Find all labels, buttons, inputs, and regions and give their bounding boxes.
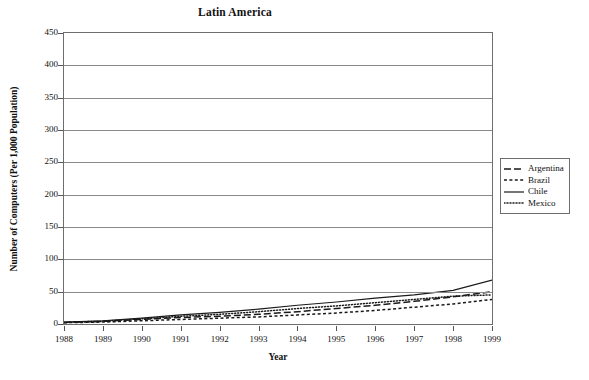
y-axis-tick-label: 100 <box>26 254 58 263</box>
chart-title: Latin America <box>0 6 470 18</box>
x-axis-tick-mark <box>181 326 182 331</box>
y-axis-tick-label: 150 <box>26 222 58 231</box>
gridline <box>64 98 492 99</box>
series-line-mexico <box>64 295 492 322</box>
x-axis-tick-mark <box>414 326 415 331</box>
gridline <box>64 162 492 163</box>
x-axis-tick-label: 1992 <box>200 335 240 344</box>
series-lines <box>64 33 492 324</box>
x-axis-tick-label: 1996 <box>355 335 395 344</box>
x-axis-tick-mark <box>453 326 454 331</box>
gridline <box>64 130 492 131</box>
legend-swatch-argentina-icon <box>504 164 524 174</box>
y-axis-tick-label: 50 <box>26 287 58 296</box>
plot-area <box>63 32 493 325</box>
legend-item-brazil[interactable]: Brazil <box>504 175 566 187</box>
x-axis-tick-mark <box>64 326 65 331</box>
legend-item-mexico[interactable]: Mexico <box>504 198 566 210</box>
x-axis-tick-label: 1993 <box>239 335 279 344</box>
x-axis-tick-mark <box>220 326 221 331</box>
x-axis-tick-mark <box>142 326 143 331</box>
gridline <box>64 292 492 293</box>
y-axis-tick-label: 250 <box>26 157 58 166</box>
gridline <box>64 65 492 66</box>
y-axis-tick-label: 400 <box>26 60 58 69</box>
y-axis-ticks: 050100150200250300350400450 <box>20 0 58 380</box>
x-axis-tick-label: 1990 <box>122 335 162 344</box>
x-axis-tick-mark <box>259 326 260 331</box>
x-axis-tick-label: 1988 <box>44 335 84 344</box>
gridline <box>64 259 492 260</box>
x-axis-tick-mark <box>492 326 493 331</box>
y-axis-tick-label: 450 <box>26 28 58 37</box>
legend-label: Mexico <box>528 199 556 208</box>
y-axis-tick-label: 0 <box>26 319 58 328</box>
x-axis-tick-mark <box>297 326 298 331</box>
x-axis-tick-label: 1994 <box>277 335 317 344</box>
legend-item-argentina[interactable]: Argentina <box>504 163 566 175</box>
legend-swatch-chile-icon <box>504 187 524 197</box>
x-axis-tick-label: 1989 <box>83 335 123 344</box>
series-line-chile <box>64 280 492 322</box>
legend-label: Chile <box>528 187 548 196</box>
x-axis-tick-label: 1998 <box>433 335 473 344</box>
chart-legend: ArgentinaBrazilChileMexico <box>500 158 570 214</box>
legend-label: Argentina <box>528 164 564 173</box>
x-axis-tick-label: 1995 <box>316 335 356 344</box>
x-axis-tick-label: 1997 <box>394 335 434 344</box>
x-axis-label: Year <box>63 352 493 362</box>
y-axis-tick-label: 200 <box>26 190 58 199</box>
x-axis-tick-label: 1999 <box>472 335 512 344</box>
legend-swatch-mexico-icon <box>504 198 524 208</box>
gridline <box>64 195 492 196</box>
chart-container: Latin America Number of Computers (Per 1… <box>0 0 589 380</box>
x-axis-tick-mark <box>103 326 104 331</box>
x-axis-tick-label: 1991 <box>161 335 201 344</box>
legend-item-chile[interactable]: Chile <box>504 186 566 198</box>
legend-label: Brazil <box>528 176 550 185</box>
x-axis-tick-mark <box>336 326 337 331</box>
y-axis-label: Number of Computers (Per 1,000 Populatio… <box>9 86 19 271</box>
y-axis-tick-label: 300 <box>26 125 58 134</box>
gridline <box>64 227 492 228</box>
legend-swatch-brazil-icon <box>504 175 524 185</box>
y-axis-tick-label: 350 <box>26 93 58 102</box>
x-axis-tick-mark <box>375 326 376 331</box>
